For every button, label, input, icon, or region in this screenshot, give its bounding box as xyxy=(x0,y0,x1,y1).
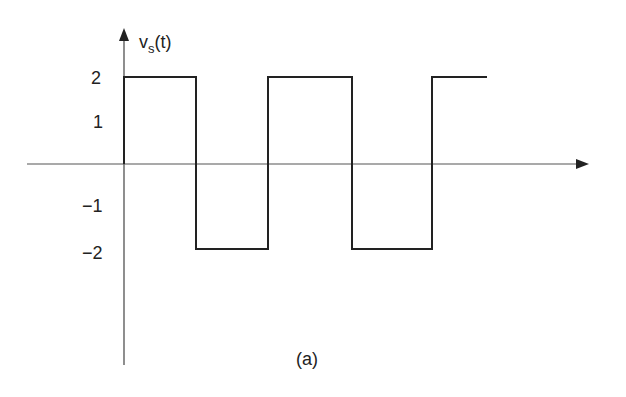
square-wave-diagram: vs(t) 2 1 −1 −2 (a) xyxy=(0,0,626,397)
square-wave-signal xyxy=(124,77,487,249)
figure-caption: (a) xyxy=(296,349,318,369)
y-axis-label: vs(t) xyxy=(139,32,172,56)
tick-label-neg1: −1 xyxy=(82,196,103,216)
y-axis-arrow-icon xyxy=(119,28,129,41)
tick-label-1: 1 xyxy=(93,112,103,132)
tick-label-2: 2 xyxy=(91,68,101,88)
y-label-t: (t) xyxy=(155,32,172,52)
tick-label-neg2: −2 xyxy=(82,243,103,263)
x-axis-arrow-icon xyxy=(576,159,589,169)
y-label-v: v xyxy=(139,32,148,52)
